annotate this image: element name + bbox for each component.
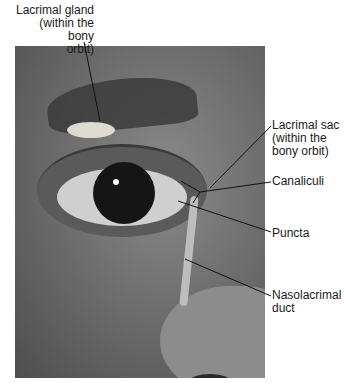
leader-canaliculi-lower bbox=[193, 192, 200, 203]
leader-canaliculi-upper bbox=[181, 181, 200, 192]
label-nasolacrimal-duct: Nasolacrimal duct bbox=[272, 289, 341, 315]
leader-puncta bbox=[178, 201, 271, 232]
label-lacrimal-gland: Lacrimal gland (within the bony orbit) bbox=[10, 4, 94, 56]
label-lacrimal-sac: Lacrimal sac (within the bony orbit) bbox=[272, 119, 339, 158]
leader-lines bbox=[0, 0, 344, 388]
leader-nasolacrimal-duct bbox=[185, 259, 271, 296]
label-puncta: Puncta bbox=[272, 227, 309, 240]
label-canaliculi: Canaliculi bbox=[272, 175, 324, 188]
leader-lacrimal-sac bbox=[210, 126, 271, 188]
